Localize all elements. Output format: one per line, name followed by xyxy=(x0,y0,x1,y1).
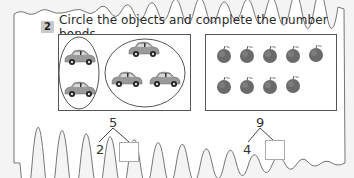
bond-answer-box-apples[interactable] xyxy=(265,140,285,160)
bond-part-known-apples: 4 xyxy=(243,143,251,156)
bond-whole-apples: 9 xyxy=(256,116,264,129)
bond-whole-cars: 5 xyxy=(109,116,117,129)
worksheet-page: 2 Circle the objects and complete the nu… xyxy=(0,0,354,178)
bond-answer-box-cars[interactable] xyxy=(119,142,139,162)
number-bond-lines xyxy=(0,0,354,178)
bond-part-known-cars: 2 xyxy=(96,143,104,156)
